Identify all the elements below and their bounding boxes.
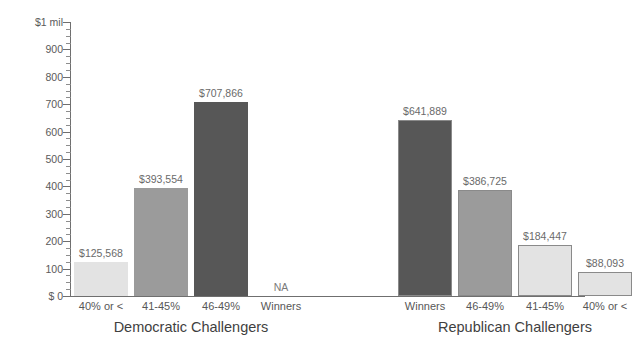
y-axis-tick-major xyxy=(63,22,71,23)
y-axis-tick-major xyxy=(63,214,71,215)
y-axis-tick-minor xyxy=(66,255,71,256)
y-axis-tick-minor xyxy=(66,282,71,283)
bar[interactable] xyxy=(578,272,632,296)
y-axis-tick-minor xyxy=(66,193,71,194)
bar-value-label: $393,554 xyxy=(122,174,200,185)
y-axis-tick-minor xyxy=(66,63,71,64)
y-axis-tick-minor xyxy=(66,91,71,92)
y-axis-tick-major xyxy=(63,49,71,50)
bar[interactable] xyxy=(134,188,188,296)
y-axis-tick-minor xyxy=(66,262,71,263)
y-axis-tick-minor xyxy=(66,145,71,146)
y-axis-tick-minor xyxy=(66,221,71,222)
y-axis-tick-minor xyxy=(66,248,71,249)
y-axis-tick-minor xyxy=(66,207,71,208)
y-axis-tick-minor xyxy=(66,275,71,276)
y-axis-tick-major xyxy=(63,104,71,105)
bar[interactable] xyxy=(194,102,248,296)
bar-value-label: $707,866 xyxy=(182,88,260,99)
y-axis-tick-minor xyxy=(66,111,71,112)
y-axis-tick-minor xyxy=(66,180,71,181)
y-axis-tick-minor xyxy=(66,166,71,167)
y-axis-tick-minor xyxy=(66,70,71,71)
group-title: Republican Challengers xyxy=(368,320,636,335)
y-axis-tick-major xyxy=(63,132,71,133)
y-axis-tick-minor xyxy=(66,125,71,126)
bar[interactable] xyxy=(458,190,512,296)
y-axis-tick-minor xyxy=(66,36,71,37)
x-axis-category-label: Winners xyxy=(241,301,321,312)
x-axis-category-label: 40% or < xyxy=(565,301,636,312)
y-axis-tick-minor xyxy=(66,29,71,30)
y-axis-tick-minor xyxy=(66,152,71,153)
y-axis-tick-minor xyxy=(66,118,71,119)
y-axis-tick-major xyxy=(63,77,71,78)
y-axis-tick-minor xyxy=(66,97,71,98)
y-axis-tick-major xyxy=(63,296,71,297)
bar[interactable] xyxy=(518,245,572,296)
y-axis-tick-major xyxy=(63,241,71,242)
y-axis-tick-major xyxy=(63,186,71,187)
bar-na-label: NA xyxy=(242,282,320,293)
y-axis-tick-minor xyxy=(66,56,71,57)
bar-value-label: $88,093 xyxy=(566,258,636,269)
bar-value-label: $386,725 xyxy=(446,176,524,187)
bar[interactable] xyxy=(74,262,128,296)
y-axis-tick-minor xyxy=(66,289,71,290)
bar-value-label: $184,447 xyxy=(506,231,584,242)
y-axis-tick-minor xyxy=(66,234,71,235)
bar-value-label: $125,568 xyxy=(62,248,140,259)
group-title: Democratic Challengers xyxy=(44,320,338,335)
y-axis-tick-minor xyxy=(66,138,71,139)
y-axis-tick-minor xyxy=(66,43,71,44)
y-axis-tick-major xyxy=(63,269,71,270)
bar-value-label: $641,889 xyxy=(386,106,464,117)
bar[interactable] xyxy=(398,120,452,296)
y-axis-tick-minor xyxy=(66,84,71,85)
y-axis-tick-major xyxy=(63,159,71,160)
y-axis-tick-minor xyxy=(66,200,71,201)
y-axis-tick-minor xyxy=(66,173,71,174)
y-axis-tick-minor xyxy=(66,228,71,229)
